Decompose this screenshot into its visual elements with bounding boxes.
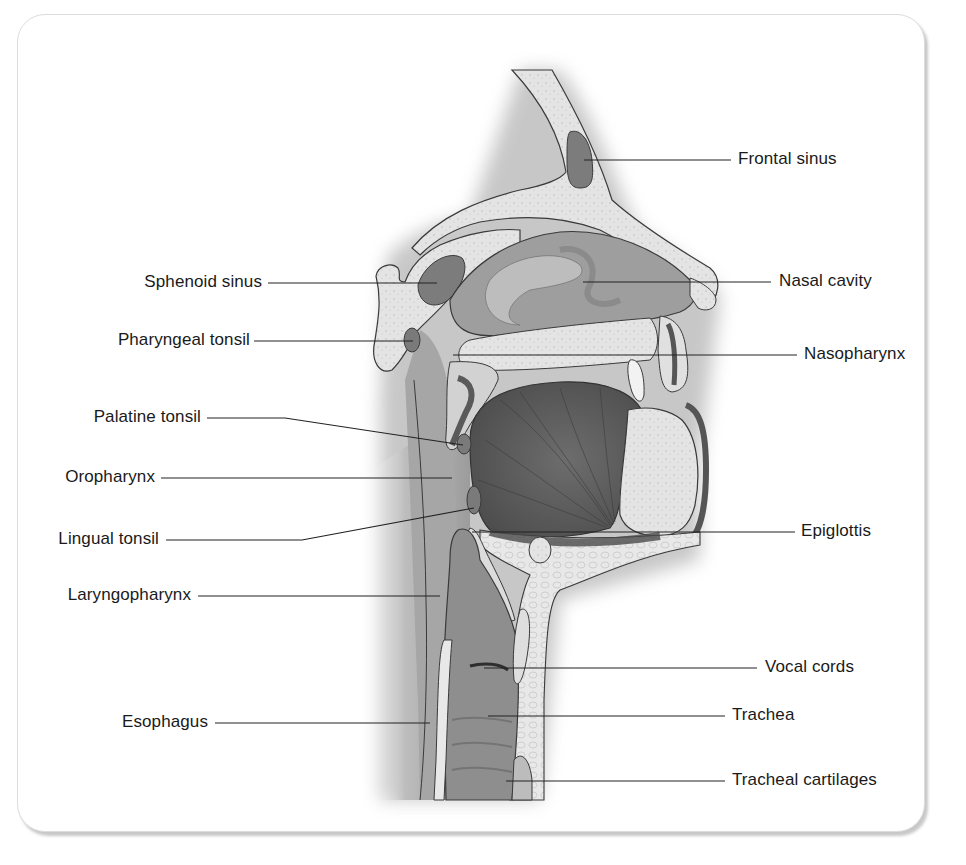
- label-lingual-tonsil: Lingual tonsil: [58, 529, 159, 549]
- palatine-tonsil-shape: [457, 434, 471, 454]
- lingual-tonsil-shape: [467, 486, 481, 514]
- label-trachea: Trachea: [732, 705, 794, 725]
- anatomy-illustration: [0, 0, 966, 865]
- label-oropharynx: Oropharynx: [65, 467, 155, 487]
- label-epiglottis: Epiglottis: [801, 521, 871, 541]
- label-tracheal-cartilages: Tracheal cartilages: [732, 770, 877, 790]
- label-frontal-sinus: Frontal sinus: [738, 149, 837, 169]
- label-vocal-cords: Vocal cords: [765, 657, 854, 677]
- label-esophagus: Esophagus: [122, 712, 208, 732]
- label-pharyngeal-tonsil: Pharyngeal tonsil: [118, 330, 250, 350]
- label-nasopharynx: Nasopharynx: [804, 344, 905, 364]
- pharyngeal-tonsil-shape: [404, 328, 420, 352]
- label-palatine-tonsil: Palatine tonsil: [94, 407, 201, 427]
- label-nasal-cavity: Nasal cavity: [779, 271, 872, 291]
- mandible: [620, 408, 698, 536]
- label-laryngopharynx: Laryngopharynx: [68, 585, 191, 605]
- hyoid-bone: [529, 537, 551, 563]
- label-sphenoid-sinus: Sphenoid sinus: [144, 272, 262, 292]
